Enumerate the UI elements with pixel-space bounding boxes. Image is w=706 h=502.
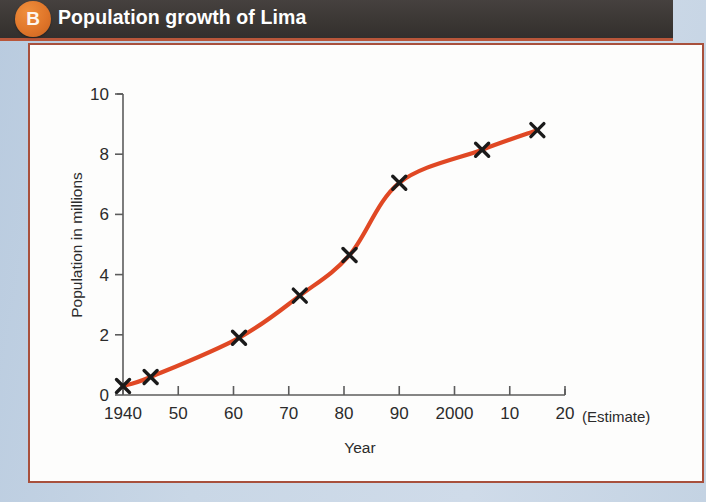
data-point-marker — [233, 331, 246, 344]
data-point-marker — [293, 289, 306, 302]
x-axis-ticks: 1940506070809020001020 — [104, 386, 574, 423]
x-tick-label: 50 — [169, 404, 188, 423]
panel-title: Population growth of Lima — [58, 6, 306, 29]
y-tick-label: 6 — [100, 205, 109, 224]
x-axis-title: Year — [344, 439, 375, 456]
population-growth-line-chart: 0246810 1940506070809020001020 Populatio… — [30, 45, 702, 481]
x-tick-label: 2000 — [436, 404, 474, 423]
data-point-markers — [117, 124, 544, 393]
chart-panel: the page behind shows faintly through th… — [28, 43, 704, 483]
x-tick-label: 60 — [224, 404, 243, 423]
population-trend-line — [123, 130, 537, 386]
y-tick-label: 4 — [100, 266, 109, 285]
panel-letter-badge-label: B — [15, 1, 51, 37]
y-axis-ticks: 0246810 — [90, 85, 123, 405]
y-tick-label: 8 — [100, 145, 109, 164]
data-point-marker — [343, 249, 356, 262]
panel-header-underline — [0, 38, 673, 41]
y-tick-label: 10 — [90, 85, 109, 104]
panel-letter-badge: B — [15, 1, 51, 37]
y-tick-label: 0 — [100, 386, 109, 405]
page-background: B Population growth of Lima the page beh… — [0, 0, 706, 502]
estimate-annotation: (Estimate) — [582, 408, 650, 425]
x-tick-label: 1940 — [104, 404, 142, 423]
data-point-marker — [393, 176, 406, 189]
y-axis-title: Population in millions — [68, 172, 85, 318]
y-tick-label: 2 — [100, 326, 109, 345]
x-tick-label: 80 — [335, 404, 354, 423]
x-tick-label: 20 — [556, 404, 575, 423]
x-tick-label: 10 — [500, 404, 519, 423]
x-tick-label: 70 — [279, 404, 298, 423]
x-tick-label: 90 — [390, 404, 409, 423]
